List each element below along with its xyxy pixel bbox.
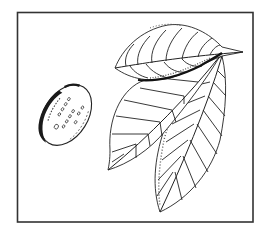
nut-drawing [29, 75, 102, 155]
illustration-frame: Botanical line drawing of a nut and thre… [0, 0, 269, 232]
